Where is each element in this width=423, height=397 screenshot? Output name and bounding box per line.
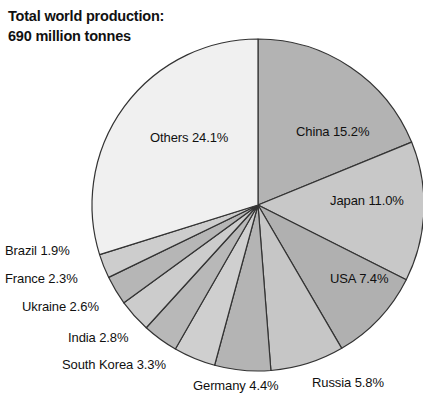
pie-label-russia: Russia 5.8% [312, 375, 384, 390]
chart-title-line-1: Total world production: [8, 6, 268, 26]
pie-label-india: India 2.8% [68, 330, 128, 345]
pie-chart-figure: Total world production: 690 million tonn… [0, 0, 423, 397]
pie-label-brazil: Brazil 1.9% [5, 243, 70, 258]
chart-title: Total world production: 690 million tonn… [8, 6, 268, 46]
pie-label-japan: Japan 11.0% [330, 193, 404, 208]
pie-label-others: Others 24.1% [150, 130, 228, 145]
pie-label-germany: Germany 4.4% [193, 378, 279, 393]
pie-label-china: China 15.2% [296, 124, 369, 139]
pie-label-ukraine: Ukraine 2.6% [22, 299, 99, 314]
pie-label-south-korea: South Korea 3.3% [62, 357, 166, 372]
pie-label-usa: USA 7.4% [330, 271, 388, 286]
chart-title-line-2: 690 million tonnes [8, 26, 268, 46]
pie-label-france: France 2.3% [5, 271, 78, 286]
